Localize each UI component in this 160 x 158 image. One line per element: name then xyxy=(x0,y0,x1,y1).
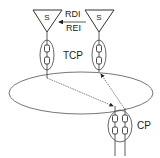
rdi-label: RDI xyxy=(65,9,81,19)
trail-path-forward xyxy=(47,78,113,106)
source-right-triangle: S xyxy=(85,10,114,32)
source-left-label: S xyxy=(44,13,49,22)
cp-group xyxy=(108,110,132,142)
resistor-icon xyxy=(45,57,50,64)
resistor-icon xyxy=(113,127,118,134)
resistor-icon xyxy=(97,45,102,52)
resistor-icon xyxy=(97,57,102,64)
tcp-left-group xyxy=(40,40,54,70)
source-left-triangle: S xyxy=(33,10,62,32)
trail-path-return xyxy=(101,74,124,108)
source-right-label: S xyxy=(96,13,101,22)
resistor-icon xyxy=(123,115,128,122)
tcp-label: TCP xyxy=(63,50,83,61)
resistor-icon xyxy=(45,45,50,52)
cp-label: CP xyxy=(137,120,151,131)
network-domain-ellipse xyxy=(9,72,153,114)
resistor-icon xyxy=(123,127,128,134)
rei-label: REI xyxy=(66,23,81,33)
tcp-right-group xyxy=(92,40,106,70)
resistor-icon xyxy=(113,115,118,122)
network-diagram: S S RDI REI TCP CP xyxy=(0,0,160,158)
